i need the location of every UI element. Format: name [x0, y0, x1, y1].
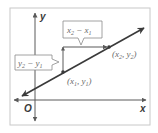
point-1-marker — [61, 70, 65, 74]
rise-label: y2 − y1 — [17, 58, 43, 69]
run-label: x2 − x1 — [66, 25, 92, 36]
x-axis-label: x — [139, 103, 146, 114]
point-2-marker — [107, 45, 111, 49]
slope-diagram: y x O (x1, y1) (x2, y2) x2 − x1 y2 − y1 — [0, 0, 158, 133]
y-axis-label: y — [39, 11, 46, 22]
origin-label: O — [24, 103, 32, 114]
point-1-label: (x1, y1) — [67, 76, 92, 87]
point-2-label: (x2, y2) — [112, 49, 137, 60]
